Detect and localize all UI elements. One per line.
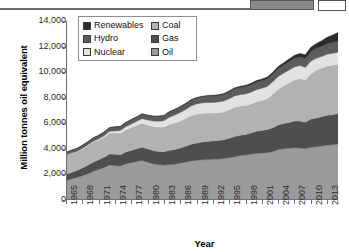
x-tick-label: 1992 xyxy=(217,185,226,205)
x-tick-label: 1980 xyxy=(152,185,161,205)
x-tick-label: 2010 xyxy=(315,185,324,205)
x-axis-title: Year xyxy=(0,238,349,249)
x-tick-label: 1977 xyxy=(135,185,144,205)
x-tick-mark xyxy=(311,200,312,204)
chart-figure: Million tonnes oil equivalent 02,0004,00… xyxy=(0,0,349,252)
toolbar-gray-button[interactable] xyxy=(250,0,314,10)
legend-swatch-icon xyxy=(83,48,91,56)
x-tick-label: 1974 xyxy=(119,185,128,205)
legend-item-hydro[interactable]: Hydro xyxy=(83,34,151,43)
x-tick-mark xyxy=(213,200,214,204)
x-tick-mark xyxy=(164,200,165,204)
x-tick-mark xyxy=(115,200,116,204)
legend-label: Renewables xyxy=(94,21,144,30)
toolbar-white-button[interactable] xyxy=(318,0,346,11)
legend-label: Nuclear xyxy=(94,48,125,57)
legend-label: Hydro xyxy=(94,34,118,43)
y-tick-mark xyxy=(62,98,66,99)
legend-swatch-icon xyxy=(151,22,159,30)
y-tick-mark xyxy=(62,47,66,48)
legend-label: Coal xyxy=(162,21,181,30)
legend-label: Gas xyxy=(162,34,179,43)
x-tick-label: 1998 xyxy=(250,185,259,205)
chart-legend[interactable]: RenewablesCoalHydroGasNuclearOil xyxy=(78,16,197,61)
x-tick-mark xyxy=(278,200,279,204)
x-tick-mark xyxy=(229,200,230,204)
x-tick-label: 2001 xyxy=(266,185,275,205)
x-tick-label: 1971 xyxy=(103,185,112,205)
y-tick-mark xyxy=(62,72,66,73)
legend-item-gas[interactable]: Gas xyxy=(151,34,198,43)
legend-item-oil[interactable]: Oil xyxy=(151,48,198,57)
x-tick-mark xyxy=(294,200,295,204)
x-tick-label: 2007 xyxy=(298,185,307,205)
x-tick-label: 2013 xyxy=(331,185,340,205)
x-tick-mark xyxy=(180,200,181,204)
y-axis-line xyxy=(66,21,67,200)
x-tick-mark xyxy=(262,200,263,204)
legend-swatch-icon xyxy=(83,22,91,30)
x-tick-label: 2004 xyxy=(282,185,291,205)
legend-swatch-icon xyxy=(151,48,159,56)
x-tick-mark xyxy=(131,200,132,204)
toolbar-rule xyxy=(0,8,250,10)
x-tick-mark xyxy=(99,200,100,204)
x-tick-mark xyxy=(197,200,198,204)
y-tick-mark xyxy=(62,123,66,124)
x-tick-label: 1968 xyxy=(86,185,95,205)
legend-item-renewables[interactable]: Renewables xyxy=(83,21,151,30)
legend-swatch-icon xyxy=(83,35,91,43)
x-tick-mark xyxy=(66,200,67,204)
x-tick-mark xyxy=(246,200,247,204)
x-tick-label: 1995 xyxy=(233,185,242,205)
x-tick-mark xyxy=(82,200,83,204)
x-tick-label: 1983 xyxy=(168,185,177,205)
y-axis-title: Million tonnes oil equivalent xyxy=(18,23,29,193)
y-tick-mark xyxy=(62,174,66,175)
legend-item-nuclear[interactable]: Nuclear xyxy=(83,48,151,57)
legend-swatch-icon xyxy=(151,35,159,43)
x-tick-mark xyxy=(327,200,328,204)
legend-label: Oil xyxy=(162,48,173,57)
legend-item-coal[interactable]: Coal xyxy=(151,21,198,30)
cropped-toolbar-strip xyxy=(0,0,349,12)
x-axis-title-text: Year xyxy=(194,238,214,249)
y-tick-mark xyxy=(62,149,66,150)
y-tick-mark xyxy=(62,21,66,22)
x-tick-mark xyxy=(148,200,149,204)
x-tick-label: 1965 xyxy=(70,185,79,205)
x-tick-label: 1986 xyxy=(184,185,193,205)
x-tick-label: 1989 xyxy=(201,185,210,205)
